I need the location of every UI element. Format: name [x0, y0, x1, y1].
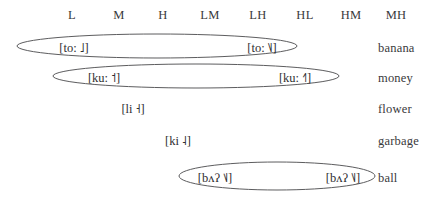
- column-header-m: M: [113, 7, 124, 23]
- gloss-label-money: money: [378, 68, 413, 88]
- gloss-label-flower: flower: [378, 99, 412, 119]
- transcription-banana-l: [to: ˩]: [59, 38, 88, 58]
- table-row: [to: ˩][to: ˥˩]banana: [0, 38, 439, 60]
- transcription-ball-lh: [bʌʔ ˦˩]: [198, 168, 232, 188]
- column-header-l: L: [68, 7, 76, 23]
- column-header-lm: LM: [200, 7, 219, 23]
- transcription-ball-mh: [bʌʔ ˥˩]: [326, 168, 360, 188]
- transcription-garbage-lm: [ki ˨]: [165, 131, 191, 151]
- transcription-money-hm: [ku: ˧˥]: [279, 68, 311, 88]
- table-row: [li ˧]flower: [0, 99, 439, 121]
- table-row: [bʌʔ ˦˩][bʌʔ ˥˩]ball: [0, 168, 439, 190]
- transcription-money-m: [ku: ˦]: [88, 68, 120, 88]
- column-header-mh: MH: [386, 7, 407, 23]
- column-header-hm: HM: [341, 7, 362, 23]
- transcription-flower-h: [li ˧]: [121, 99, 144, 119]
- column-header-hl: HL: [296, 7, 313, 23]
- tone-pattern-figure: LMHLMLHHLHMMH [to: ˩][to: ˥˩]banana[ku: …: [0, 0, 439, 201]
- transcription-banana-hl: [to: ˥˩]: [247, 38, 276, 58]
- table-row: [ki ˨]garbage: [0, 131, 439, 153]
- gloss-label-banana: banana: [378, 38, 415, 58]
- gloss-label-garbage: garbage: [378, 131, 419, 151]
- table-row: [ku: ˦][ku: ˧˥]money: [0, 68, 439, 90]
- column-header-h: H: [158, 7, 167, 23]
- column-header-lh: LH: [249, 7, 266, 23]
- gloss-label-ball: ball: [378, 168, 398, 188]
- column-header-row: LMHLMLHHLHMMH: [0, 7, 439, 25]
